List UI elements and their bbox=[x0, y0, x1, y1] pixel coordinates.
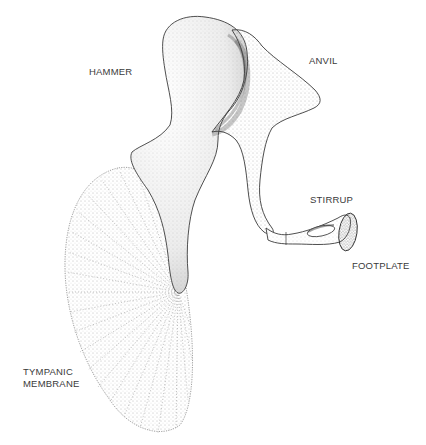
label-footplate: FOOTPLATE bbox=[352, 260, 410, 272]
stirrup-bone bbox=[266, 215, 351, 245]
label-tympanic-membrane: TYMPANIC MEMBRANE bbox=[23, 366, 103, 390]
label-anvil: ANVIL bbox=[309, 55, 337, 67]
label-stirrup: STIRRUP bbox=[310, 194, 353, 206]
label-tympanic-line1: TYMPANIC bbox=[23, 366, 103, 378]
label-hammer: HAMMER bbox=[89, 66, 132, 78]
label-tympanic-line2: MEMBRANE bbox=[23, 378, 103, 390]
ossicles-diagram: HAMMER ANVIL STIRRUP FOOTPLATE TYMPANIC … bbox=[0, 0, 426, 445]
